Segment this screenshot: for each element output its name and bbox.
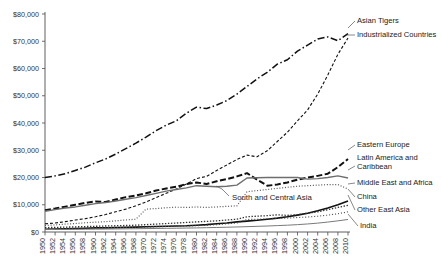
x-tick-label: 1962: [99, 238, 108, 254]
x-tick-label: 1964: [109, 238, 118, 254]
x-tick-label: 1980: [190, 238, 199, 254]
series-line-asian-tigers: [45, 34, 348, 178]
x-tick-label: 1992: [250, 238, 259, 254]
series-label: India: [360, 221, 377, 230]
y-tick-label: $60,000: [13, 64, 39, 73]
series-label: Latin America and: [357, 153, 418, 162]
series-label: China: [357, 192, 378, 201]
y-tick-label: $50,000: [13, 91, 39, 100]
x-tick-label: 1952: [48, 238, 57, 254]
x-tick-label: 1956: [68, 238, 77, 254]
x-tick-label: 1994: [260, 238, 269, 254]
x-tick-label: 2002: [301, 238, 310, 254]
x-tick-label: 2006: [321, 238, 330, 254]
x-tick-label: 1954: [58, 238, 67, 254]
x-tick-label: 2010: [341, 238, 350, 254]
series-line-eastern-europe: [45, 159, 348, 210]
series-label: Middle East and Africa: [357, 178, 433, 187]
x-tick-label: 2008: [331, 238, 340, 254]
x-tick-label: 1950: [38, 238, 47, 254]
y-tick-label: $30,000: [13, 146, 39, 155]
x-tick-label: 1960: [89, 238, 98, 254]
x-tick-label: 1996: [270, 238, 279, 254]
x-tick-label: 1974: [159, 238, 168, 254]
x-tick-label: 2000: [291, 238, 300, 254]
series-label: Eastern Europe: [357, 140, 410, 149]
x-tick-label: 1978: [179, 238, 188, 254]
series-label: Asian Tigers: [357, 16, 399, 25]
x-tick-label: 2004: [311, 238, 320, 254]
series-label: Other East Asia: [357, 205, 411, 214]
x-tick-label: 1990: [240, 238, 249, 254]
y-tick-label: $70,000: [13, 37, 39, 46]
chart-canvas: $0$10,000$20,000$30,000$40,000$50,000$60…: [0, 0, 441, 272]
series-label: Caribbean: [357, 162, 392, 171]
gdp-per-capita-line-chart: $0$10,000$20,000$30,000$40,000$50,000$60…: [0, 0, 441, 272]
series-line-china: [45, 201, 348, 229]
y-tick-label: $80,000: [13, 10, 39, 19]
series-label: Industrialized Countries: [357, 30, 437, 39]
x-tick-label: 1982: [200, 238, 209, 254]
x-tick-label: 1986: [220, 238, 229, 254]
x-tick-label: 1988: [230, 238, 239, 254]
y-axis: $0$10,000$20,000$30,000$40,000$50,000$60…: [13, 10, 45, 237]
x-tick-label: 1966: [119, 238, 128, 254]
x-tick-label: 1984: [210, 238, 219, 254]
x-tick-label: 1958: [78, 238, 87, 254]
series-labels: Asian TigersIndustrialized CountriesEast…: [216, 16, 437, 230]
x-tick-label: 1998: [280, 238, 289, 254]
y-tick-label: $40,000: [13, 119, 39, 128]
x-tick-label: 1968: [129, 238, 138, 254]
x-axis: 1950195219541956195819601962196419661968…: [38, 232, 350, 254]
x-tick-label: 1976: [169, 238, 178, 254]
inline-annotation-south-and-central-asia: South and Central Asia: [232, 193, 312, 202]
y-tick-label: $10,000: [13, 200, 39, 209]
y-tick-label: $20,000: [13, 173, 39, 182]
x-tick-label: 1970: [139, 238, 148, 254]
y-tick-label: $0: [31, 228, 39, 237]
x-tick-label: 1972: [149, 238, 158, 254]
